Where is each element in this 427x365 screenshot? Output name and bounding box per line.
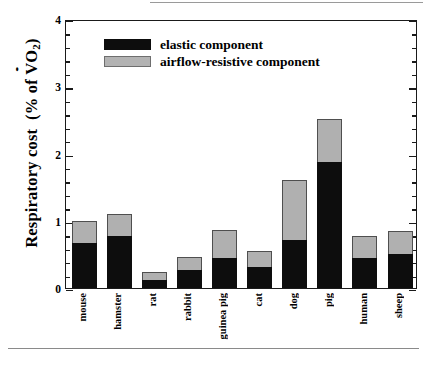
- bar-mouse: [72, 221, 97, 288]
- chart-figure: Respiratory cost (% of VO2) 01234 elasti…: [0, 0, 427, 365]
- bar-rabbit: [177, 257, 202, 288]
- bar-segment-airflow-resistive: [72, 221, 97, 243]
- x-tick-label-rat: rat: [146, 293, 160, 306]
- bar-segment-airflow-resistive: [142, 272, 167, 280]
- bar-segment-elastic: [388, 254, 413, 288]
- bar-segment-airflow-resistive: [352, 236, 377, 258]
- bar-sheep: [388, 231, 413, 288]
- x-tick-label-human: human: [357, 293, 371, 325]
- bar-guinea-pig: [212, 230, 237, 289]
- x-tick-label-pig: pig: [322, 293, 336, 307]
- bar-segment-elastic: [72, 243, 97, 288]
- bar-rat: [142, 272, 167, 288]
- x-tick-label-hamster: hamster: [111, 293, 125, 330]
- y-tick-label: 0: [55, 284, 61, 296]
- y-tick-label: 1: [55, 217, 61, 229]
- plot-area: 01234 elastic component airflow-resistiv…: [65, 20, 417, 289]
- bottom-rule: [8, 348, 419, 349]
- bar-pig: [317, 119, 342, 288]
- x-tick-label-cat: cat: [252, 293, 266, 306]
- bar-segment-elastic: [317, 162, 342, 288]
- bar-segment-airflow-resistive: [247, 251, 272, 267]
- y-axis-title: Respiratory cost (% of VO2): [22, 0, 42, 293]
- x-tick-label-dog: dog: [287, 293, 301, 309]
- bar-human: [352, 236, 377, 288]
- bar-segment-airflow-resistive: [107, 214, 132, 236]
- bar-segment-airflow-resistive: [212, 230, 237, 258]
- bar-segment-elastic: [247, 267, 272, 288]
- top-rule: [150, 2, 423, 3]
- bar-segment-airflow-resistive: [282, 180, 307, 240]
- bar-segment-elastic: [177, 270, 202, 288]
- y-axis-title-text: Respiratory cost (% of VO2): [22, 38, 41, 248]
- bar-segment-elastic: [282, 240, 307, 288]
- bar-segment-elastic: [142, 280, 167, 288]
- x-tick-label-rabbit: rabbit: [181, 293, 195, 321]
- x-axis-labels: mousehamsterratrabbitguinea pigcatdogpig…: [65, 289, 417, 349]
- bar-segment-elastic: [107, 236, 132, 288]
- y-tick-label: 4: [55, 15, 61, 27]
- y-tick-label: 2: [55, 150, 61, 162]
- bar-segment-airflow-resistive: [177, 257, 202, 270]
- bar-hamster: [107, 214, 132, 288]
- y-tick-label: 3: [55, 83, 61, 95]
- bar-segment-elastic: [352, 258, 377, 288]
- x-tick-label-guinea-pig: guinea pig: [216, 293, 230, 339]
- bar-group: [66, 21, 416, 288]
- bar-segment-elastic: [212, 258, 237, 288]
- x-tick-label-mouse: mouse: [76, 293, 90, 322]
- bar-cat: [247, 251, 272, 288]
- x-tick-label-sheep: sheep: [392, 293, 406, 318]
- bar-dog: [282, 180, 307, 288]
- bar-segment-airflow-resistive: [388, 231, 413, 254]
- bar-segment-airflow-resistive: [317, 119, 342, 161]
